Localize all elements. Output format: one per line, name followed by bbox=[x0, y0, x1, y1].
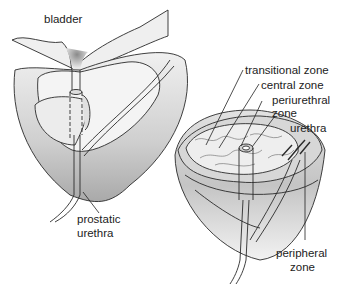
left-prostate-view bbox=[12, 10, 188, 222]
label-transitional-zone: transitional zone bbox=[245, 64, 329, 76]
label-urethra: urethra bbox=[290, 122, 326, 134]
label-bladder: bladder bbox=[44, 13, 82, 25]
label-central-zone: central zone bbox=[261, 79, 324, 91]
label-peripheral-zone-line2: zone bbox=[290, 261, 315, 273]
prostate-diagram bbox=[0, 0, 337, 287]
label-prostatic-urethra-line1: prostatic bbox=[77, 213, 120, 225]
label-periurethral-zone-line2: zone bbox=[272, 107, 297, 119]
label-peripheral-zone-line1: peripheral bbox=[276, 247, 327, 259]
label-periurethral-zone-line1: periurethral bbox=[272, 94, 330, 106]
label-prostatic-urethra-line2: urethra bbox=[77, 227, 113, 239]
